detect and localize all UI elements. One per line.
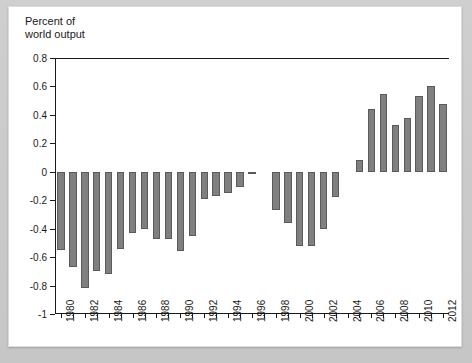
x-tick-label: 1992 xyxy=(208,300,219,322)
bar xyxy=(404,118,411,172)
x-tick xyxy=(348,314,349,318)
x-tick-label: 2012 xyxy=(447,300,458,322)
bar xyxy=(332,172,339,198)
x-tick-label: 2004 xyxy=(352,300,363,322)
x-tick-label: 2006 xyxy=(375,300,386,322)
x-tick-label: 1988 xyxy=(160,300,171,322)
x-tick-label: 2008 xyxy=(399,300,410,322)
y-tick xyxy=(50,314,55,315)
x-tick xyxy=(371,314,372,318)
x-tick xyxy=(300,314,301,318)
y-tick-label: 0.4 xyxy=(33,109,47,120)
bar xyxy=(212,172,219,196)
x-tick xyxy=(109,314,110,318)
bar xyxy=(392,125,399,172)
bar xyxy=(69,172,76,267)
x-tick xyxy=(180,314,181,318)
x-tick-label: 2002 xyxy=(328,300,339,322)
bar xyxy=(284,172,291,223)
x-tick-label: 2010 xyxy=(423,300,434,322)
bar xyxy=(165,172,172,239)
y-tick-label: 0.8 xyxy=(33,53,47,64)
bar xyxy=(141,172,148,229)
y-tick-label: 0 xyxy=(41,166,47,177)
plot-area: 0.80.60.40.20-0.2-0.4-0.6-0.8-1 19801982… xyxy=(55,58,449,314)
bar xyxy=(201,172,208,199)
x-tick xyxy=(85,314,86,318)
bar xyxy=(415,96,422,171)
x-tick-label: 1996 xyxy=(256,300,267,322)
x-tick-label: 1986 xyxy=(137,300,148,322)
x-tick xyxy=(228,314,229,318)
y-tick-label: -0.8 xyxy=(30,280,47,291)
x-tick xyxy=(443,314,444,318)
bar xyxy=(368,109,375,172)
y-tick-label: -0.4 xyxy=(30,223,47,234)
bar xyxy=(439,104,446,172)
chart-card: Percent of world output 0.80.60.40.20-0.… xyxy=(8,6,462,347)
y-axis-title: Percent of world output xyxy=(25,15,85,41)
x-tick-label: 2000 xyxy=(304,300,315,322)
bar xyxy=(296,172,303,246)
bar xyxy=(117,172,124,249)
x-tick xyxy=(133,314,134,318)
x-tick-label: 1980 xyxy=(65,300,76,322)
x-tick xyxy=(204,314,205,318)
bar xyxy=(320,172,327,229)
y-tick-label: 0.2 xyxy=(33,138,47,149)
bar xyxy=(427,86,434,171)
bar xyxy=(356,160,363,171)
bar xyxy=(177,172,184,252)
x-tick-label: 1982 xyxy=(89,300,100,322)
bar xyxy=(105,172,112,274)
bar xyxy=(224,172,231,193)
y-tick-label: -0.6 xyxy=(30,252,47,263)
x-tick xyxy=(276,314,277,318)
y-tick-label: -0.2 xyxy=(30,195,47,206)
bar xyxy=(189,172,196,236)
x-tick xyxy=(156,314,157,318)
bar xyxy=(57,172,64,250)
x-tick xyxy=(419,314,420,318)
bar xyxy=(81,172,88,289)
bar-series xyxy=(55,58,449,314)
bar xyxy=(153,172,160,239)
bar xyxy=(248,172,255,174)
y-tick-label: -1 xyxy=(38,309,47,320)
bar xyxy=(308,172,315,246)
x-tick-label: 1990 xyxy=(184,300,195,322)
x-tick-label: 1998 xyxy=(280,300,291,322)
x-tick-label: 1984 xyxy=(113,300,124,322)
screenshot-root: Percent of world output 0.80.60.40.20-0.… xyxy=(0,0,472,363)
bar xyxy=(129,172,136,233)
bar xyxy=(93,172,100,272)
x-tick xyxy=(61,314,62,318)
x-tick-label: 1994 xyxy=(232,300,243,322)
bar xyxy=(236,172,243,188)
x-tick xyxy=(395,314,396,318)
bar xyxy=(272,172,279,210)
y-tick-label: 0.6 xyxy=(33,81,47,92)
x-tick xyxy=(252,314,253,318)
x-tick xyxy=(324,314,325,318)
bar xyxy=(380,94,387,172)
